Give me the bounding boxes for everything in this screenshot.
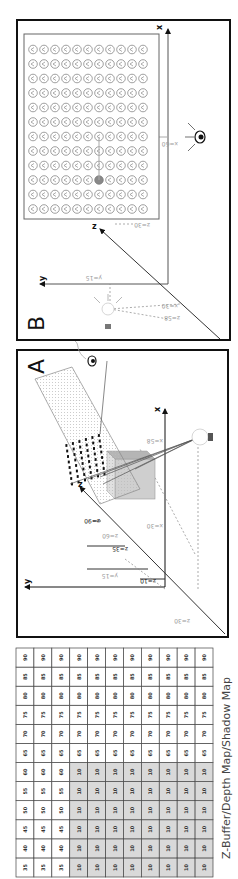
- depth-cell-value: 10: [183, 825, 189, 832]
- pixel: [40, 161, 49, 170]
- pixel: [106, 205, 115, 214]
- pixel: [40, 190, 49, 199]
- depth-cell-value: 10: [129, 768, 135, 775]
- pixel: [84, 205, 93, 214]
- pixel: [51, 190, 60, 199]
- depth-cell-value: 75: [112, 711, 118, 718]
- pixel: [84, 176, 93, 185]
- panel-a: A y x z z=10 z=35 z=60 z=90 y=15 x=30 x=…: [17, 341, 228, 637]
- pixel: [128, 103, 137, 112]
- pixel: [29, 176, 38, 185]
- pixel: [62, 205, 71, 214]
- depth-cell-value: 10: [147, 787, 153, 794]
- svg-text:z=35: z=35: [112, 546, 128, 553]
- depth-cell-value: 70: [94, 730, 100, 737]
- depth-cell-value: 10: [94, 768, 100, 775]
- depth-cell-value: 10: [76, 806, 82, 813]
- pixel: [139, 45, 148, 54]
- pixel: [106, 190, 115, 199]
- depth-cell-value: 10: [165, 806, 171, 813]
- pixel: [29, 118, 38, 127]
- pixel: [29, 147, 38, 156]
- pixel: [128, 176, 137, 185]
- pixel: [139, 176, 148, 185]
- depth-cell-value: 70: [165, 730, 171, 737]
- depth-cell-value: 80: [165, 692, 171, 699]
- pixel: [40, 103, 49, 112]
- svg-text:z=30: z=30: [174, 618, 190, 625]
- depth-cell-value: 10: [183, 863, 189, 870]
- pixel: [128, 161, 137, 170]
- pixel: [84, 60, 93, 69]
- svg-text:z=60: z=60: [102, 533, 118, 540]
- pixel: [51, 176, 60, 185]
- depth-cell-value: 80: [40, 692, 46, 699]
- pixel: [29, 89, 38, 98]
- depth-cell-value: 80: [112, 692, 118, 699]
- pixel: [117, 89, 126, 98]
- depth-map-grid: 3540455055606570758085903540455055606570…: [16, 648, 213, 877]
- svg-text:z=30: z=30: [134, 222, 150, 229]
- pixel: [95, 74, 104, 83]
- depth-cell-value: 75: [58, 711, 64, 718]
- depth-cell-value: 10: [112, 844, 118, 851]
- pixel: [73, 60, 82, 69]
- depth-cell-value: 10: [76, 863, 82, 870]
- pixel: [73, 176, 82, 185]
- depth-cell-value: 70: [58, 730, 64, 737]
- pixel: [51, 205, 60, 214]
- depth-cell-value: 65: [129, 749, 135, 756]
- depth-cell-value: 10: [147, 825, 153, 832]
- depth-cell-value: 90: [183, 654, 189, 661]
- panel-b: B y x z y=15 z=30 z=58 x=30 x=60: [17, 20, 230, 340]
- pixel: [62, 45, 71, 54]
- svg-text:z: z: [92, 222, 97, 231]
- depth-cell-value: 65: [201, 749, 207, 756]
- pixel: [73, 147, 82, 156]
- pixel: [84, 118, 93, 127]
- pixel: [62, 161, 71, 170]
- pixel: [128, 118, 137, 127]
- pixel: [62, 147, 71, 156]
- pixel: [62, 89, 71, 98]
- pixel: [40, 89, 49, 98]
- depth-cell-value: 80: [129, 692, 135, 699]
- depth-cell-value: 90: [201, 654, 207, 661]
- depth-cell-value: 80: [147, 692, 153, 699]
- panel-b-label: B: [24, 316, 49, 331]
- depth-cell-value: 80: [94, 692, 100, 699]
- depth-cell-value: 70: [112, 730, 118, 737]
- pixel: [139, 118, 148, 127]
- pixel: [73, 103, 82, 112]
- depth-cell-value: 90: [129, 654, 135, 661]
- pixel: [73, 89, 82, 98]
- depth-cell-value: 40: [22, 844, 28, 851]
- pixel: [106, 147, 115, 156]
- depth-cell-value: 10: [183, 806, 189, 813]
- depth-cell-value: 50: [40, 806, 46, 813]
- pixel: [51, 147, 60, 156]
- pixel: [51, 161, 60, 170]
- depth-cell-value: 10: [76, 768, 82, 775]
- depth-cell-value: 45: [58, 825, 64, 832]
- depth-cell-value: 85: [112, 673, 118, 680]
- figure: 3540455055606570758085903540455055606570…: [0, 0, 238, 879]
- depth-cell-value: 10: [129, 787, 135, 794]
- depth-cell-value: 75: [201, 711, 207, 718]
- depth-cell-value: 10: [76, 844, 82, 851]
- depth-cell-value: 35: [22, 863, 28, 870]
- depth-cell-value: 60: [40, 768, 46, 775]
- pixel: [29, 132, 38, 141]
- eye-icon: [88, 356, 96, 366]
- pixel: [117, 132, 126, 141]
- depth-cell-value: 85: [147, 673, 153, 680]
- pixel: [62, 118, 71, 127]
- depth-cell-value: 10: [147, 863, 153, 870]
- pixel: [51, 118, 60, 127]
- depth-cell-value: 85: [183, 673, 189, 680]
- pixel: [139, 74, 148, 83]
- pixel: [73, 161, 82, 170]
- pixel: [106, 176, 115, 185]
- pixel: [84, 161, 93, 170]
- depth-cell-value: 10: [129, 863, 135, 870]
